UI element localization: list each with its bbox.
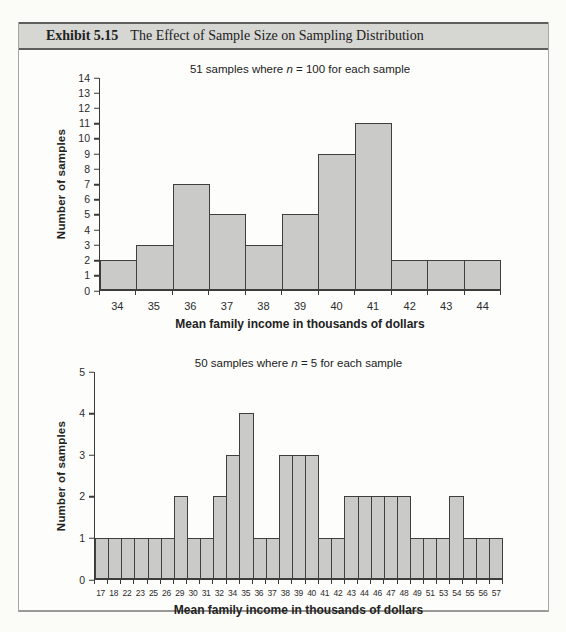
bar-38 <box>279 455 293 579</box>
x-tick-label: 51 <box>424 588 437 598</box>
bar-37 <box>266 538 280 579</box>
bar-32 <box>213 496 227 579</box>
x-tick-label: 29 <box>173 588 186 598</box>
x-tick-label: 35 <box>136 300 173 312</box>
bar-40 <box>318 154 355 290</box>
x-axis-title: Mean family income in thousands of dolla… <box>99 317 501 331</box>
x-tick-label: 18 <box>107 588 120 598</box>
bar-22 <box>121 538 135 579</box>
x-tick-label: 41 <box>318 588 331 598</box>
bar-43 <box>427 260 464 290</box>
exhibit-number: Exhibit 5.15 <box>46 28 118 44</box>
x-tick-label: 36 <box>172 300 209 312</box>
x-tick-label: 57 <box>490 588 503 598</box>
bar-36 <box>173 184 210 290</box>
bar-38 <box>245 245 282 290</box>
y-tick-label: 12 <box>78 103 90 114</box>
bar-42 <box>391 260 428 290</box>
x-axis-labels: 3435363738394041424344 <box>99 295 501 312</box>
bar-40 <box>305 455 319 579</box>
y-tick-label: 1 <box>79 533 85 544</box>
x-tick-label: 26 <box>160 588 173 598</box>
y-axis: 01234567891011121314 <box>73 78 99 291</box>
x-tick-label: 49 <box>411 588 424 598</box>
y-tick-label: 9 <box>84 149 90 160</box>
y-axis-title: Number of samples <box>55 129 67 239</box>
y-tick-label: 3 <box>79 450 85 461</box>
bar-44 <box>464 260 501 290</box>
x-tick-label: 34 <box>99 300 136 312</box>
bar-56 <box>476 538 490 579</box>
bar-48 <box>397 496 411 579</box>
x-axis-labels: 1718222325262930313234353637383940414243… <box>94 584 503 598</box>
x-tick-label: 38 <box>245 300 282 312</box>
x-tick-label: 44 <box>464 300 501 312</box>
bar-55 <box>463 538 477 579</box>
x-tick-label: 48 <box>397 588 410 598</box>
x-axis-title: Mean family income in thousands of dolla… <box>94 603 503 617</box>
bar-46 <box>371 496 385 579</box>
y-tick-label: 0 <box>84 286 90 297</box>
x-tick-label: 42 <box>331 588 344 598</box>
x-tick-label: 44 <box>358 588 371 598</box>
bar-41 <box>318 538 332 579</box>
y-axis-title-cell: Number of samples <box>49 372 73 580</box>
chart-title-suffix: = 5 for each sample <box>298 357 403 369</box>
bar-29 <box>174 496 188 579</box>
y-tick-label: 8 <box>84 164 90 175</box>
x-tick-label: 35 <box>239 588 252 598</box>
x-tick-label: 46 <box>371 588 384 598</box>
bar-39 <box>282 214 319 290</box>
x-tick-label: 55 <box>463 588 476 598</box>
y-tick-label: 5 <box>84 210 90 221</box>
bar-57 <box>489 538 503 579</box>
exhibit-header: Exhibit 5.15 The Effect of Sample Size o… <box>19 22 548 50</box>
y-tick-label: 14 <box>78 73 90 84</box>
bar-54 <box>449 496 463 579</box>
chart-title-prefix: 51 samples where <box>190 63 287 75</box>
y-tick-label: 0 <box>79 575 85 586</box>
x-tick-label: 43 <box>345 588 358 598</box>
chart-title-prefix: 50 samples where <box>195 357 292 369</box>
bar-37 <box>209 214 246 290</box>
bars-container <box>100 78 501 290</box>
bar-26 <box>161 538 175 579</box>
x-tick-label: 34 <box>226 588 239 598</box>
y-tick-label: 1 <box>84 271 90 282</box>
x-tick-label: 43 <box>428 300 465 312</box>
x-tick-label: 25 <box>147 588 160 598</box>
y-tick-label: 11 <box>79 118 90 129</box>
bar-35 <box>239 413 253 579</box>
bar-25 <box>148 538 162 579</box>
bar-49 <box>410 538 424 579</box>
x-tick-label: 37 <box>265 588 278 598</box>
histogram-n100: 51 samples where n = 100 for each sample… <box>49 58 548 331</box>
plot-area <box>94 372 503 580</box>
x-tick-label: 22 <box>120 588 133 598</box>
x-tick-label: 53 <box>437 588 450 598</box>
bar-53 <box>436 538 450 579</box>
y-tick-label: 5 <box>79 367 85 378</box>
bar-42 <box>331 538 345 579</box>
bar-39 <box>292 455 306 579</box>
histogram-n5: 50 samples where n = 5 for each sample N… <box>49 352 548 617</box>
exhibit-title: The Effect of Sample Size on Sampling Di… <box>130 28 423 44</box>
bar-34 <box>226 455 240 579</box>
y-tick-label: 2 <box>84 255 90 266</box>
bar-23 <box>134 538 148 579</box>
x-tick-label: 36 <box>252 588 265 598</box>
bars-container <box>95 372 503 579</box>
chart-title: 51 samples where n = 100 for each sample <box>99 63 501 78</box>
chart-title-suffix: = 100 for each sample <box>293 63 410 75</box>
y-tick-label: 7 <box>84 179 90 190</box>
y-tick-label: 4 <box>79 408 85 419</box>
x-tick-label: 42 <box>391 300 428 312</box>
x-tick-label: 30 <box>186 588 199 598</box>
x-tick-label: 32 <box>213 588 226 598</box>
y-tick-label: 3 <box>84 240 90 251</box>
x-tick-label: 40 <box>318 300 355 312</box>
y-tick-label: 6 <box>84 194 90 205</box>
x-tick-label: 54 <box>450 588 463 598</box>
plot-area <box>99 78 501 291</box>
x-tick-label: 41 <box>355 300 392 312</box>
